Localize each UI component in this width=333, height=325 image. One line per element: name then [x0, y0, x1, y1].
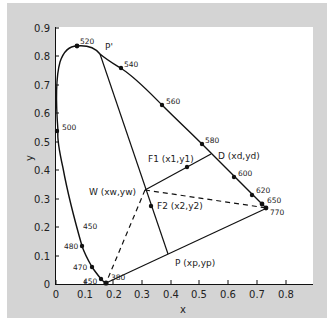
x-tick-0.1: 0.1	[77, 289, 93, 300]
marker-580	[200, 142, 204, 146]
y-tick-0: 0	[44, 279, 50, 290]
marker-650	[260, 202, 265, 207]
wl-label-770: 770	[270, 208, 285, 217]
wl-label-620: 620	[256, 186, 271, 195]
y-tick-0.7: 0.7	[34, 80, 50, 91]
wl-label-580: 580	[205, 136, 220, 145]
wl-label-500: 500	[62, 123, 77, 132]
y-tick-0.9: 0.9	[34, 23, 50, 34]
marker-620	[250, 193, 254, 197]
marker-520	[75, 44, 80, 49]
marker-560	[160, 103, 164, 107]
wl-label-600: 600	[238, 169, 253, 178]
label-p: P (xp,yp)	[175, 258, 215, 268]
label-f2: F2 (x2,y2)	[157, 201, 203, 211]
marker-380	[103, 280, 108, 285]
marker-770	[264, 206, 269, 211]
x-tick-0.5: 0.5	[191, 289, 207, 300]
x-tick-labels: 0 0.1 0.2 0.3 0.4 0.5 0.6 0.7 0.8	[53, 289, 294, 300]
label-f1: F1 (x1,y1)	[148, 154, 194, 164]
x-tick-0.8: 0.8	[278, 289, 294, 300]
label-w: W (xw,yw)	[89, 187, 136, 197]
y-tick-0.6: 0.6	[34, 108, 50, 119]
x-tick-0.3: 0.3	[134, 289, 150, 300]
marker-470	[90, 265, 94, 269]
y-tick-0.1: 0.1	[34, 251, 50, 262]
wl-label-650: 650	[267, 196, 282, 205]
x-tick-0: 0	[53, 289, 59, 300]
label-d: D (xd,yd)	[218, 151, 260, 161]
label-p-prime: P'	[105, 42, 113, 52]
wl-label-520: 520	[80, 37, 95, 46]
marker-480	[80, 244, 84, 248]
x-tick-0.2: 0.2	[106, 289, 122, 300]
marker-500	[55, 129, 59, 133]
marker-450	[99, 277, 103, 281]
y-tick-0.5: 0.5	[34, 137, 50, 148]
wl-label-540: 540	[124, 60, 139, 69]
marker-f1	[185, 165, 189, 169]
x-tick-0.4: 0.4	[163, 289, 179, 300]
marker-f2	[149, 204, 153, 208]
wl-label-380: 380	[111, 273, 126, 282]
wl-label-470: 470	[73, 263, 88, 272]
y-tick-0.2: 0.2	[34, 222, 50, 233]
y-tick-0.3: 0.3	[34, 194, 50, 205]
x-tick-0.7: 0.7	[249, 289, 265, 300]
chromaticity-chart: 0 0.1 0.2 0.3 0.4 0.5 0.6 0.7 0.8 0.9 0 …	[0, 0, 333, 325]
wl-label-450: 450	[83, 277, 98, 286]
y-tick-0.4: 0.4	[34, 165, 50, 176]
x-tick-0.6: 0.6	[220, 289, 236, 300]
y-axis-label: y	[24, 155, 35, 161]
wl-label-560: 560	[166, 97, 181, 106]
wl-label-480: 480	[64, 242, 79, 251]
marker-540	[119, 66, 123, 70]
marker-600	[232, 175, 236, 179]
y-tick-0.8: 0.8	[34, 51, 50, 62]
x-axis-label: x	[180, 304, 186, 315]
wl-label-450b: 450	[83, 222, 98, 231]
